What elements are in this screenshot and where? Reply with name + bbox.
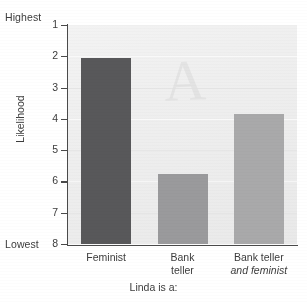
- bar-series: [68, 25, 297, 244]
- y-axis-bottom-caption: Lowest: [5, 238, 39, 250]
- y-axis-tick-label: 3: [36, 81, 58, 93]
- y-axis-tick-label: 1: [36, 18, 58, 30]
- y-axis-tick: [61, 244, 68, 245]
- y-axis-tick: [61, 213, 68, 214]
- bar-chart-figure: Highest Lowest Likelihood A 12345678 Fem…: [0, 0, 307, 302]
- y-axis-tick-label: 4: [36, 112, 58, 124]
- y-axis-tick: [61, 119, 68, 120]
- y-axis-tick: [61, 150, 68, 151]
- y-axis-tick: [61, 181, 68, 182]
- bar-1: [81, 58, 131, 244]
- category-label-line: and feminist: [204, 264, 307, 277]
- y-axis-tick-label: 6: [36, 174, 58, 186]
- y-axis-tick: [61, 56, 68, 57]
- y-axis-tick-label: 7: [36, 206, 58, 218]
- y-axis-tick-label: 2: [36, 49, 58, 61]
- x-axis-title: Linda is a:: [0, 281, 307, 293]
- category-label-line: Bank teller: [204, 251, 307, 264]
- y-axis-title: Likelihood: [14, 74, 26, 164]
- x-axis-line: [67, 245, 298, 246]
- plot-area: A: [68, 25, 297, 244]
- y-axis-tick-label: 5: [36, 143, 58, 155]
- bar-3: [234, 114, 284, 244]
- y-axis-tick: [61, 88, 68, 89]
- bar-2: [158, 174, 208, 244]
- category-label-3: Bank tellerand feminist: [204, 251, 307, 276]
- y-axis-tick: [61, 25, 68, 26]
- y-axis-tick-label: 8: [36, 237, 58, 249]
